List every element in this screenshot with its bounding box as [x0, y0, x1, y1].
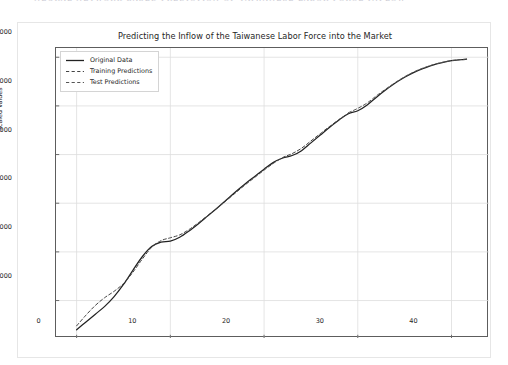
series-line-2	[348, 59, 466, 113]
y-axis-label: Scaled Values	[0, 51, 3, 131]
legend-label: Training Predictions	[90, 66, 152, 77]
legend-label: Original Data	[90, 55, 132, 66]
y-tick-label: 7000	[0, 272, 12, 280]
legend-item: Training Predictions	[65, 66, 152, 77]
legend-label: Test Predictions	[90, 77, 140, 88]
figure-card: Predicting the Inflow of the Taiwanese L…	[17, 22, 491, 358]
legend-item: Test Predictions	[65, 77, 152, 88]
x-tick-label: 10	[117, 317, 147, 325]
chart-legend: Original DataTraining PredictionsTest Pr…	[60, 51, 159, 92]
x-tick-label: 20	[211, 317, 241, 325]
chart-title: Predicting the Inflow of the Taiwanese L…	[18, 31, 492, 41]
y-tick-label: 8000	[0, 223, 12, 231]
y-tick-label: 12000	[0, 28, 12, 36]
document-header-text: NEURAL NETWORK BASED PREDICTION OF TAIWA…	[34, 0, 474, 3]
legend-item: Original Data	[65, 55, 152, 66]
legend-line-icon	[65, 79, 85, 86]
plot-area: Original DataTraining PredictionsTest Pr…	[55, 47, 488, 337]
document-header-strip: NEURAL NETWORK BASED PREDICTION OF TAIWA…	[0, 0, 508, 11]
legend-line-icon	[65, 57, 85, 64]
screenshot-page: NEURAL NETWORK BASED PREDICTION OF TAIWA…	[0, 0, 508, 365]
x-tick-label: 30	[305, 317, 335, 325]
x-tick-label: 40	[399, 317, 429, 325]
series-line-0	[77, 59, 467, 330]
series-layer	[77, 59, 467, 330]
x-tick-label: 0	[24, 317, 54, 325]
x-tick-labels: 010203040	[18, 317, 451, 331]
legend-line-icon	[65, 68, 85, 75]
y-tick-label: 9000	[0, 174, 12, 182]
